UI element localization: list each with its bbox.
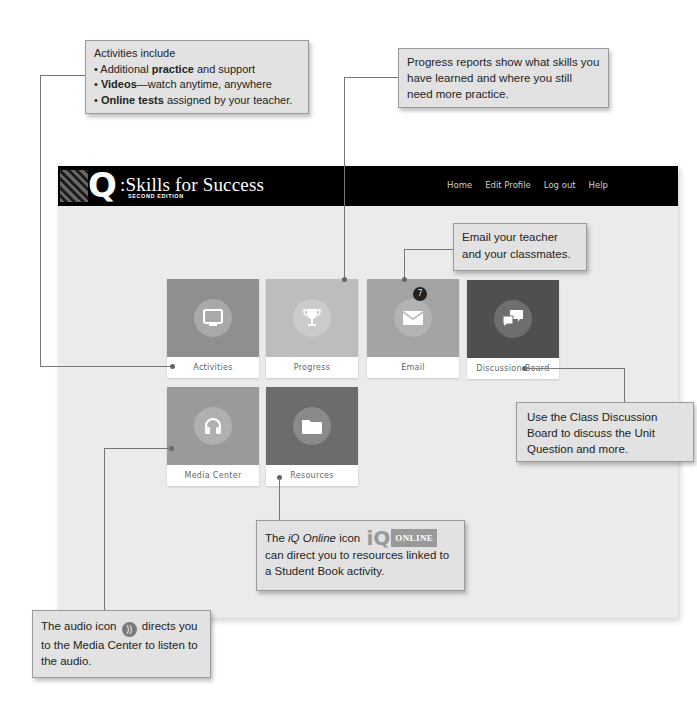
leader-line bbox=[404, 249, 405, 279]
icon-circle bbox=[293, 299, 331, 337]
leader-line bbox=[104, 448, 171, 449]
callout-activities: Activities include • Additional practice… bbox=[85, 40, 309, 114]
top-bar: Q :Skills for Success SECOND EDITION Hom… bbox=[58, 166, 678, 206]
leader-line bbox=[279, 478, 280, 520]
tile-discussion-board[interactable]: Discussion Board bbox=[467, 280, 559, 379]
leader-dot bbox=[342, 277, 347, 282]
leader-line bbox=[344, 77, 398, 78]
callout-progress-text: Progress reports show what skills you ha… bbox=[407, 56, 599, 100]
logo-q: Q bbox=[88, 167, 117, 203]
tile-art bbox=[167, 387, 259, 465]
tile-email[interactable]: 7 Email bbox=[367, 279, 459, 378]
leader-line bbox=[404, 249, 453, 250]
callout-discussion-text: Use the Class Discussion Board to discus… bbox=[527, 411, 657, 455]
leader-line bbox=[344, 77, 345, 279]
tile-art bbox=[266, 279, 358, 357]
callout-activities-intro: Activities include bbox=[94, 46, 300, 62]
unread-count-badge: 7 bbox=[413, 287, 427, 301]
tile-art bbox=[167, 279, 259, 357]
tile-art bbox=[266, 387, 358, 465]
callout-email: Email your teacher and your classmates. bbox=[453, 223, 587, 271]
icon-circle bbox=[293, 407, 331, 445]
icon-circle bbox=[194, 299, 232, 337]
tile-activities[interactable]: Activities bbox=[167, 279, 259, 378]
iq-online-icon: iQONLINE bbox=[366, 529, 437, 547]
leader-dot bbox=[170, 364, 175, 369]
leader-line bbox=[40, 75, 85, 76]
chat-bubbles-icon bbox=[502, 309, 524, 329]
tile-label: Activities bbox=[167, 357, 259, 378]
top-nav: Home Edit Profile Log out Help bbox=[447, 180, 608, 190]
callout-iq-line-2: can direct you to resources linked to a … bbox=[265, 547, 456, 579]
tile-label: Media Center bbox=[167, 465, 259, 486]
tile-label: Progress bbox=[266, 357, 358, 378]
icon-circle bbox=[194, 407, 232, 445]
nav-edit-profile[interactable]: Edit Profile bbox=[485, 180, 531, 190]
callout-progress: Progress reports show what skills you ha… bbox=[398, 48, 609, 108]
callout-activities-bullet-2: • Videos—watch anytime, anywhere bbox=[94, 77, 300, 93]
callout-iq-online: The iQ Online icon iQONLINE can direct y… bbox=[256, 520, 465, 591]
tile-progress[interactable]: Progress bbox=[266, 279, 358, 378]
trophy-icon bbox=[303, 308, 321, 328]
leader-line bbox=[104, 448, 105, 610]
callout-audio: The audio icon )) directs you to the Med… bbox=[32, 610, 211, 678]
tile-resources[interactable]: Resources bbox=[266, 387, 358, 486]
envelope-icon bbox=[403, 311, 423, 325]
monitor-icon bbox=[203, 309, 223, 327]
callout-activities-bullet-3: • Online tests assigned by your teacher. bbox=[94, 93, 300, 109]
icon-circle bbox=[394, 299, 432, 337]
leader-line bbox=[40, 75, 41, 367]
callout-iq-line-1: The iQ Online icon iQONLINE bbox=[265, 529, 456, 547]
tile-media-center[interactable]: Media Center bbox=[167, 387, 259, 486]
folder-icon bbox=[302, 418, 322, 434]
nav-log-out[interactable]: Log out bbox=[544, 180, 576, 190]
callout-activities-bullet-1: • Additional practice and support bbox=[94, 62, 300, 78]
nav-home[interactable]: Home bbox=[447, 180, 472, 190]
headphones-icon bbox=[204, 417, 222, 435]
icon-circle bbox=[494, 300, 532, 338]
logo-pattern-icon bbox=[60, 170, 88, 202]
leader-line bbox=[624, 368, 625, 402]
leader-line bbox=[525, 368, 624, 369]
callout-discussion: Use the Class Discussion Board to discus… bbox=[516, 402, 694, 462]
audio-icon: )) bbox=[122, 622, 137, 637]
leader-line bbox=[40, 366, 172, 367]
tile-art bbox=[467, 280, 559, 358]
nav-help[interactable]: Help bbox=[589, 180, 608, 190]
leader-dot bbox=[402, 277, 407, 282]
app-subtitle: SECOND EDITION bbox=[128, 193, 184, 199]
app-title: :Skills for Success bbox=[120, 175, 264, 195]
callout-email-text: Email your teacher and your classmates. bbox=[462, 231, 571, 260]
tile-label: Email bbox=[367, 357, 459, 378]
